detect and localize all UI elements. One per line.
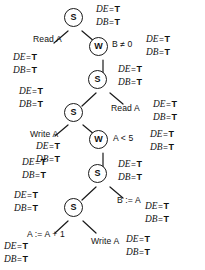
edge-label-b-assign-a: B := A: [117, 195, 141, 205]
annotation-2-de: DE=T: [146, 33, 170, 46]
annotation-1-db: DB=T: [96, 16, 120, 29]
annotation-9-db: DB=T: [22, 169, 46, 182]
annotation-14-de: DE=T: [4, 240, 28, 253]
node-s4[interactable]: S: [88, 164, 107, 183]
annotation-4: DE=T DB=T: [118, 63, 142, 88]
node-w1-label: W: [94, 42, 103, 51]
annotation-2: DE=T DB=T: [146, 33, 170, 58]
node-s5-label: S: [70, 203, 76, 212]
node-s1[interactable]: S: [64, 8, 83, 27]
annotation-14: DE=T DB=T: [4, 240, 28, 265]
annotation-1: DE=T DB=T: [96, 3, 120, 28]
annotation-3-db: DB=T: [13, 64, 37, 77]
annotation-11-db: DB=T: [145, 213, 169, 226]
node-w1[interactable]: W: [89, 37, 108, 56]
edge-label-write-a-1: Write A: [30, 129, 58, 139]
annotation-8: DE=T DB=T: [150, 128, 174, 153]
annotation-13-db: DB=T: [126, 246, 150, 259]
annotation-8-de: DE=T: [150, 128, 174, 141]
annotation-6: DE=T DB=T: [153, 98, 177, 123]
annotation-6-de: DE=T: [153, 98, 177, 111]
edge-label-read-a-1: Read A: [33, 34, 62, 44]
edge-label-a-lt-5: A < 5: [113, 133, 133, 143]
node-w2-label: W: [94, 135, 103, 144]
edge-s4-s5: [82, 187, 96, 200]
annotation-4-db: DB=T: [118, 76, 142, 89]
annotation-11-de: DE=T: [145, 200, 169, 213]
annotation-2-db: DB=T: [146, 46, 170, 59]
annotation-6-db: DB=T: [153, 111, 177, 124]
annotation-10: DE=T DB=T: [118, 158, 142, 183]
node-s4-label: S: [94, 169, 100, 178]
annotation-9-de: DE=T: [22, 156, 46, 169]
edge-label-a-assign: A := A + 1: [27, 229, 65, 239]
annotation-5-de: DE=T: [19, 85, 43, 98]
node-s2[interactable]: S: [88, 70, 107, 89]
node-w2[interactable]: W: [89, 130, 108, 149]
annotation-7-de: DE=T: [36, 140, 60, 153]
node-s3-label: S: [70, 108, 76, 117]
edge-label-write-a-2: Write A: [91, 236, 119, 246]
program-tree-diagram: S W S S W S S Read A B ≠ 0 Read A Write …: [0, 0, 205, 270]
annotation-5: DE=T DB=T: [19, 85, 43, 110]
node-s3[interactable]: S: [64, 103, 83, 122]
annotation-12: DE=T DB=T: [14, 189, 38, 214]
annotation-14-db: DB=T: [4, 253, 28, 266]
edge-label-b-ne-0: B ≠ 0: [112, 39, 133, 49]
annotation-4-de: DE=T: [118, 63, 142, 76]
node-s5[interactable]: S: [64, 198, 83, 217]
annotation-11: DE=T DB=T: [145, 200, 169, 225]
annotation-10-db: DB=T: [118, 171, 142, 184]
annotation-3: DE=T DB=T: [13, 51, 37, 76]
annotation-12-db: DB=T: [14, 202, 38, 215]
annotation-5-db: DB=T: [19, 98, 43, 111]
annotation-10-de: DE=T: [118, 158, 142, 171]
annotation-13: DE=T DB=T: [126, 233, 150, 258]
annotation-9: DE=T DB=T: [22, 156, 46, 181]
node-s2-label: S: [94, 75, 100, 84]
annotation-8-db: DB=T: [150, 141, 174, 154]
annotation-13-de: DE=T: [126, 233, 150, 246]
edge-s2-s3: [82, 93, 96, 106]
annotation-1-de: DE=T: [96, 3, 120, 16]
annotation-12-de: DE=T: [14, 189, 38, 202]
edge-s5-writeA: [83, 221, 96, 233]
node-s1-label: S: [70, 13, 76, 22]
edge-label-read-a-2: Read A: [111, 103, 140, 113]
annotation-3-de: DE=T: [13, 51, 37, 64]
